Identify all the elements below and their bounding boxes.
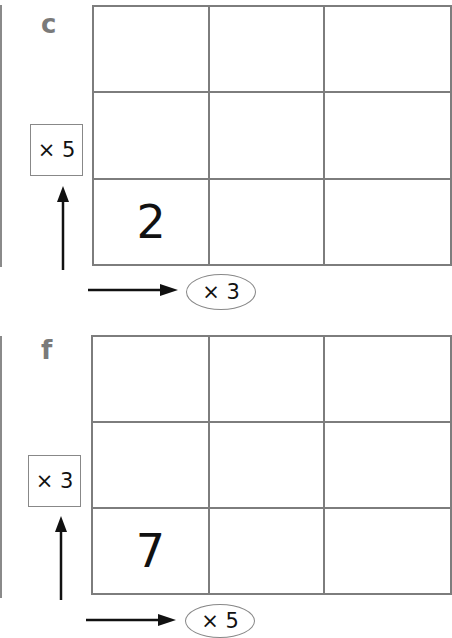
grid-cell: [324, 179, 451, 265]
vertical-factor-box: × 3: [28, 455, 81, 507]
grid-cell-start: 2: [93, 179, 209, 265]
horizontal-factor-oval: × 3: [186, 274, 256, 310]
grid-cell-start: 7: [92, 508, 209, 594]
arrow-up-icon: [55, 516, 67, 600]
adjacent-panel-edge-bottom: [0, 336, 2, 598]
grid-cell: [324, 336, 451, 422]
grid-cell: [209, 422, 324, 508]
grid-cell: [209, 508, 324, 594]
multiplication-grid: 7: [91, 335, 452, 595]
grid-cell: [92, 422, 209, 508]
multiplication-grid: 2: [92, 5, 452, 266]
panel-label: c: [41, 11, 56, 37]
arrow-up-icon: [57, 186, 69, 270]
grid-cell: [324, 6, 451, 92]
panel-label: f: [41, 337, 52, 363]
grid-cell: [324, 422, 451, 508]
adjacent-panel-edge-top: [0, 5, 2, 267]
arrow-right-icon: [86, 614, 176, 626]
grid-cell: [209, 6, 324, 92]
grid-cell: [324, 92, 451, 179]
grid-cell: [324, 508, 451, 594]
grid-cell: [209, 179, 324, 265]
vertical-factor-box: × 5: [30, 124, 83, 176]
horizontal-factor-oval: × 5: [185, 604, 255, 638]
arrow-right-icon: [88, 284, 178, 296]
grid-cell: [209, 92, 324, 179]
grid-cell: [209, 336, 324, 422]
grid-cell: [93, 6, 209, 92]
grid-cell: [92, 336, 209, 422]
grid-cell: [93, 92, 209, 179]
